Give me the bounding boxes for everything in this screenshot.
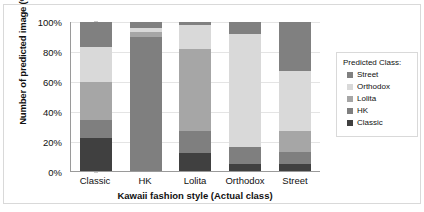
bar-segment-classic bbox=[279, 164, 311, 171]
y-axis-tick-label: 100% bbox=[38, 17, 62, 28]
bar-classic bbox=[80, 22, 112, 171]
x-axis-tick-label: Orthodox bbox=[220, 175, 270, 186]
x-axis-title: Kawaii fashion style (Actual class) bbox=[40, 190, 350, 201]
legend-swatch-icon bbox=[347, 72, 353, 78]
y-axis-tick-labels: 0%20%40%60%80%100% bbox=[28, 22, 66, 172]
x-axis-tick-label: Street bbox=[270, 175, 320, 186]
legend-item-hk: HK bbox=[347, 106, 413, 116]
x-axis-tick-label: HK bbox=[120, 175, 170, 186]
bar-orthodox bbox=[229, 22, 261, 171]
plot-area bbox=[70, 22, 320, 172]
legend-item-label: Lolita bbox=[357, 94, 376, 104]
bar-segment-hk bbox=[80, 120, 112, 138]
legend: Predicted Class: StreetOrthodoxLolitaHKC… bbox=[336, 52, 418, 137]
bar-segment-classic bbox=[80, 138, 112, 171]
bar-segment-classic bbox=[229, 164, 261, 171]
bar-hk bbox=[130, 22, 162, 171]
y-axis-tick-label: 40% bbox=[43, 107, 62, 118]
bar-segment-orthodox bbox=[80, 47, 112, 81]
bar-segment-lolita bbox=[179, 49, 211, 131]
bars-layer bbox=[71, 22, 320, 171]
legend-swatch-icon bbox=[347, 96, 353, 102]
bar-lolita bbox=[179, 22, 211, 171]
y-axis-tick-label: 80% bbox=[43, 47, 62, 58]
legend-item-label: Street bbox=[357, 70, 378, 80]
legend-item-label: Orthodox bbox=[357, 82, 390, 92]
bar-segment-orthodox bbox=[179, 25, 211, 49]
bar-segment-street bbox=[279, 22, 311, 71]
bar-segment-lolita bbox=[80, 82, 112, 121]
legend-swatch-icon bbox=[347, 84, 353, 90]
y-axis-tick-label: 60% bbox=[43, 77, 62, 88]
x-axis-tick-labels: ClassicHKLolitaOrthodoxStreet bbox=[70, 175, 320, 189]
bar-segment-orthodox bbox=[279, 71, 311, 131]
bar-segment-hk bbox=[130, 37, 162, 171]
bar-street bbox=[279, 22, 311, 171]
legend-item-orthodox: Orthodox bbox=[347, 82, 413, 92]
legend-item-lolita: Lolita bbox=[347, 94, 413, 104]
legend-item-classic: Classic bbox=[347, 118, 413, 128]
y-axis-tick-label: 20% bbox=[43, 137, 62, 148]
y-axis-title: Number of predicted image (%) bbox=[17, 0, 28, 128]
bar-segment-classic bbox=[179, 153, 211, 171]
legend-swatch-icon bbox=[347, 120, 353, 126]
legend-item-label: Classic bbox=[357, 118, 383, 128]
legend-item-label: HK bbox=[357, 106, 368, 116]
bar-segment-hk bbox=[179, 131, 211, 153]
bar-segment-orthodox bbox=[229, 34, 261, 147]
chart-root: Number of predicted image (%) 0%20%40%60… bbox=[0, 0, 424, 212]
x-axis-tick-label: Lolita bbox=[170, 175, 220, 186]
bar-segment-hk bbox=[229, 147, 261, 163]
x-axis-tick-label: Classic bbox=[70, 175, 120, 186]
bar-segment-street bbox=[80, 22, 112, 47]
bar-segment-street bbox=[229, 22, 261, 34]
y-axis-tick-label: 0% bbox=[48, 167, 62, 178]
bar-segment-lolita bbox=[279, 131, 311, 152]
bar-segment-hk bbox=[279, 152, 311, 164]
legend-title: Predicted Class: bbox=[343, 58, 413, 67]
legend-item-street: Street bbox=[347, 70, 413, 80]
legend-items: StreetOrthodoxLolitaHKClassic bbox=[343, 70, 413, 128]
legend-swatch-icon bbox=[347, 108, 353, 114]
